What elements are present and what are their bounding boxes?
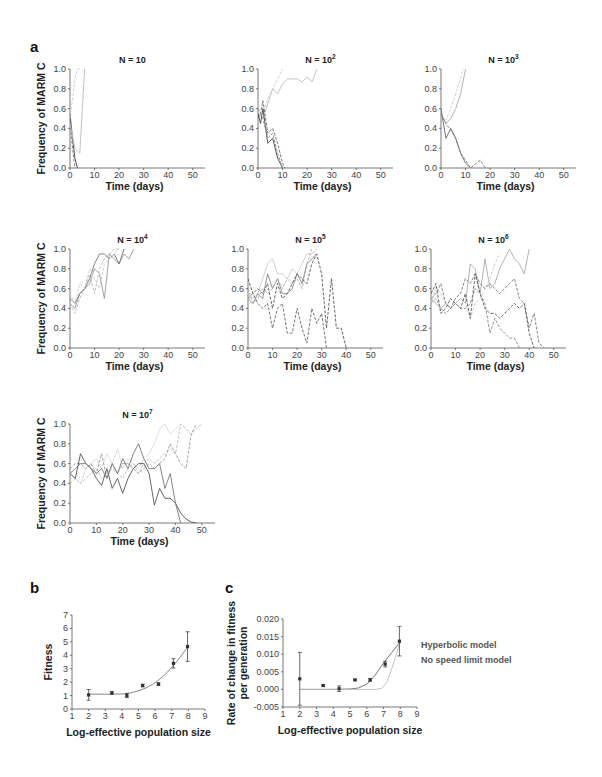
series-line bbox=[248, 249, 312, 303]
x-axis-label: Log-effective population size bbox=[66, 726, 211, 738]
panel-label-b: b bbox=[30, 579, 39, 596]
y-tick-label: 0.8 bbox=[53, 439, 66, 449]
x-tick-label: 2 bbox=[86, 711, 91, 721]
x-tick-label: 20 bbox=[302, 170, 312, 180]
y-tick-label: 0.0 bbox=[53, 518, 66, 528]
chart-a-3: 0.00.20.40.60.81.001020304050N = 104Time… bbox=[35, 233, 205, 372]
x-axis-label: Time (days) bbox=[105, 180, 163, 192]
y-tick-label: 0.020 bbox=[256, 614, 279, 624]
x-tick-label: 40 bbox=[163, 170, 173, 180]
x-axis-label: Time (days) bbox=[283, 360, 341, 372]
axes bbox=[72, 615, 205, 709]
y-tick-label: 1.0 bbox=[53, 64, 66, 74]
series-line bbox=[70, 69, 85, 153]
x-tick-label: 40 bbox=[163, 350, 173, 360]
y-axis-label: Rate of change in fitness bbox=[225, 601, 237, 725]
x-tick-label: 0 bbox=[245, 350, 250, 360]
x-tick-label: 30 bbox=[139, 350, 149, 360]
y-tick-label: 0.000 bbox=[256, 684, 279, 694]
series-line bbox=[70, 249, 119, 303]
x-tick-label: 5 bbox=[347, 709, 352, 719]
series-line bbox=[70, 444, 181, 523]
x-tick-label: 30 bbox=[144, 525, 154, 535]
data-point bbox=[157, 683, 160, 686]
chart-c-8: -0.0050.0000.0050.0100.0150.020123456789… bbox=[225, 601, 512, 736]
data-point bbox=[353, 678, 356, 681]
series-line bbox=[70, 249, 124, 303]
chart-title: N = 102 bbox=[305, 53, 336, 65]
y-tick-label: 0.6 bbox=[424, 104, 437, 114]
x-axis-label: Time (days) bbox=[293, 180, 351, 192]
y-tick-label: 0.8 bbox=[241, 84, 254, 94]
y-tick-label: 5 bbox=[63, 637, 68, 647]
chart-title: N = 105 bbox=[295, 233, 326, 245]
series-line bbox=[441, 69, 466, 123]
series-line bbox=[70, 424, 181, 483]
x-tick-label: 0 bbox=[255, 170, 260, 180]
legend-entry: No speed limit model bbox=[421, 655, 512, 665]
data-point bbox=[384, 662, 387, 665]
axes bbox=[70, 69, 205, 168]
x-tick-label: 10 bbox=[268, 350, 278, 360]
x-tick-label: 50 bbox=[366, 350, 376, 360]
axes bbox=[441, 69, 576, 168]
y-tick-label: 7 bbox=[63, 610, 68, 620]
x-tick-label: 10 bbox=[91, 525, 101, 535]
x-tick-label: 50 bbox=[549, 350, 559, 360]
x-tick-label: 8 bbox=[398, 709, 403, 719]
y-tick-label: 0.4 bbox=[231, 303, 244, 313]
chart-title: N = 104 bbox=[117, 233, 148, 245]
data-point bbox=[87, 693, 90, 696]
y-tick-label: 0.2 bbox=[414, 323, 427, 333]
series-line bbox=[441, 69, 463, 121]
x-tick-label: 20 bbox=[475, 350, 485, 360]
x-tick-label: 10 bbox=[278, 170, 288, 180]
x-tick-label: 5 bbox=[136, 711, 141, 721]
series-line bbox=[70, 249, 119, 313]
y-tick-label: 0.0 bbox=[53, 163, 66, 173]
chart-a-2: 0.00.20.40.60.81.001020304050N = 103Time… bbox=[424, 53, 576, 192]
data-point bbox=[298, 677, 301, 680]
x-tick-label: 50 bbox=[197, 525, 207, 535]
panel-label-c: c bbox=[225, 579, 233, 596]
data-point bbox=[172, 662, 175, 665]
x-tick-label: 10 bbox=[451, 350, 461, 360]
y-tick-label: 0.0 bbox=[424, 163, 437, 173]
data-point bbox=[398, 640, 401, 643]
x-tick-label: 3 bbox=[314, 709, 319, 719]
data-point bbox=[338, 687, 341, 690]
y-tick-label: 4 bbox=[63, 650, 68, 660]
x-tick-label: 10 bbox=[90, 170, 100, 180]
y-tick-label: 0.8 bbox=[424, 84, 437, 94]
x-tick-label: 0 bbox=[67, 170, 72, 180]
x-tick-label: 20 bbox=[292, 350, 302, 360]
x-tick-label: 0 bbox=[428, 350, 433, 360]
y-tick-label: 0.015 bbox=[256, 632, 279, 642]
y-tick-label: 0.6 bbox=[414, 284, 427, 294]
x-tick-label: 8 bbox=[186, 711, 191, 721]
series-line bbox=[258, 109, 283, 168]
y-axis-label: Frequency of MARM C bbox=[35, 62, 47, 174]
y-tick-label: 0.8 bbox=[414, 264, 427, 274]
x-tick-label: 1 bbox=[69, 711, 74, 721]
y-tick-label: 0.8 bbox=[53, 84, 66, 94]
y-axis-label: Fitness bbox=[42, 643, 54, 680]
series-line bbox=[258, 69, 283, 119]
y-axis-label: Frequency of MARM C bbox=[35, 417, 47, 529]
chart-a-1: 0.00.20.40.60.81.001020304050N = 102Time… bbox=[241, 53, 393, 192]
x-tick-label: 20 bbox=[118, 525, 128, 535]
x-tick-label: 10 bbox=[90, 350, 100, 360]
x-axis-label: Time (days) bbox=[476, 180, 534, 192]
y-tick-label: 0.0 bbox=[241, 163, 254, 173]
legend-entry: Hyperbolic model bbox=[421, 640, 497, 650]
x-tick-label: 30 bbox=[317, 350, 327, 360]
y-tick-label: 1 bbox=[63, 691, 68, 701]
y-tick-label: 0.0 bbox=[414, 343, 427, 353]
x-tick-label: 30 bbox=[327, 170, 337, 180]
y-tick-label: 0.6 bbox=[231, 284, 244, 294]
x-tick-label: 0 bbox=[438, 170, 443, 180]
series-line bbox=[70, 424, 202, 483]
x-tick-label: 6 bbox=[153, 711, 158, 721]
y-axis-label: Frequency of MARM C bbox=[35, 242, 47, 354]
y-tick-label: 1.0 bbox=[231, 244, 244, 254]
